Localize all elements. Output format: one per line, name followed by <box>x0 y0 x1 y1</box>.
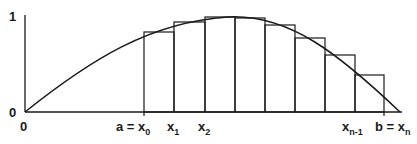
x-origin-label: 0 <box>20 119 27 134</box>
riemann-rectangle <box>205 17 235 112</box>
label-x1: x1 <box>167 119 179 137</box>
riemann-sum-diagram: 1 0 0 a = x0 x1 x2 xn-1 b = xn <box>0 0 417 144</box>
riemann-rectangle <box>235 18 265 112</box>
riemann-rectangle <box>174 22 205 112</box>
riemann-rectangles <box>144 17 384 112</box>
y-label-1: 1 <box>9 9 16 24</box>
riemann-rectangle <box>295 38 325 112</box>
riemann-rectangle <box>144 32 174 112</box>
riemann-rectangle <box>325 55 355 112</box>
label-x2: x2 <box>198 119 210 137</box>
y-label-0: 0 <box>9 105 16 120</box>
partition-labels: a = x0 x1 x2 xn-1 b = xn <box>116 119 411 137</box>
label-b-xn: b = xn <box>375 119 411 137</box>
riemann-rectangle <box>265 25 295 112</box>
function-curve <box>25 17 400 112</box>
label-a-x0: a = x0 <box>116 119 150 137</box>
label-xn-1: xn-1 <box>342 119 363 137</box>
